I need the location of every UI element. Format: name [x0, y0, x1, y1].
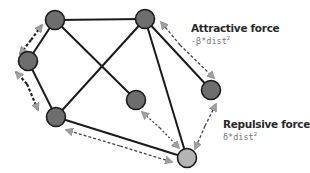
node-n1: [46, 11, 65, 30]
graph-edges: [28, 19, 211, 158]
force-arrow-n7-n4: [120, 146, 172, 162]
edge-n2-n7: [145, 19, 187, 158]
force-arrow-n1-n3: [31, 25, 42, 40]
attractive-formula-exponent: 2: [227, 35, 230, 41]
attractive-force-label: Attractive force -β*dist2: [191, 22, 279, 46]
edge-n1-n2: [55, 19, 145, 20]
node-n4: [47, 108, 66, 127]
node-n2: [136, 10, 155, 29]
edge-n4-n7: [56, 117, 187, 158]
force-arrows: [16, 22, 216, 162]
force-arrow-n2-n6: [161, 22, 180, 45]
attractive-force-formula: -β*dist2: [191, 35, 279, 46]
force-arrow-n6-n7: [205, 104, 216, 126]
repulsive-formula-exponent: 2: [254, 131, 257, 137]
repulsive-force-formula: δ*dist2: [223, 131, 310, 142]
force-arrow-n3-n4: [16, 72, 27, 84]
force-arrow-n4-n3: [27, 84, 38, 110]
force-arrow-n5-n7: [142, 112, 160, 128]
attractive-force-title: Attractive force: [191, 22, 279, 34]
repulsive-force-title: Repulsive force: [223, 118, 310, 130]
force-arrow-n4-n7: [66, 130, 120, 146]
node-n5: [127, 91, 146, 110]
force-arrow-n7-n5: [160, 128, 179, 148]
repulsive-force-label: Repulsive force δ*dist2: [223, 118, 310, 142]
force-arrow-n7-n6: [195, 126, 205, 149]
node-n6: [202, 81, 221, 100]
repulsive-formula-text: δ*dist: [223, 132, 254, 142]
node-n3: [19, 52, 38, 71]
node-n7: [178, 149, 197, 168]
attractive-formula-text: -β*dist: [191, 36, 227, 46]
edge-n1-n5: [55, 20, 136, 100]
